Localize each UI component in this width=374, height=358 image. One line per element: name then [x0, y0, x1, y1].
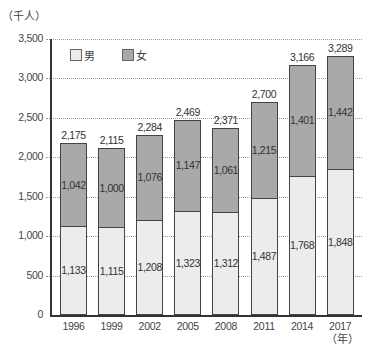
value-label-male: 1,848	[320, 236, 360, 248]
value-label-male: 1,312	[206, 257, 246, 269]
legend-swatch-female	[122, 49, 134, 61]
value-label-female: 1,401	[282, 114, 322, 126]
y-tick-label: 3,000	[3, 71, 43, 83]
value-label-male: 1,323	[168, 257, 208, 269]
value-label-female: 1,147	[168, 159, 208, 171]
value-label-total: 2,284	[130, 121, 170, 133]
value-label-female: 1,000	[92, 182, 132, 194]
value-label-female: 1,076	[130, 171, 170, 183]
y-axis-unit: （千人）	[2, 7, 46, 23]
value-label-male: 1,768	[282, 239, 322, 251]
x-tick-label: 2011	[245, 320, 283, 332]
value-label-male: 1,487	[244, 250, 284, 262]
value-label-male: 1,208	[130, 261, 170, 273]
x-tick-label: 1999	[93, 320, 131, 332]
value-label-total: 3,289	[320, 42, 360, 54]
value-label-male: 1,115	[92, 265, 132, 277]
legend-label-female: 女	[136, 47, 147, 63]
value-label-total: 2,700	[244, 88, 284, 100]
value-label-female: 1,442	[320, 106, 360, 118]
x-tick-label: 2014	[283, 320, 321, 332]
x-tick-label: 2005	[169, 320, 207, 332]
value-label-total: 2,469	[168, 106, 208, 118]
y-tick-label: 500	[3, 269, 43, 281]
y-axis-line	[50, 39, 52, 316]
stacked-bar-chart: （千人） （年） 05001,0001,5002,0002,5003,0003,…	[0, 0, 374, 358]
x-tick-label: 1996	[55, 320, 93, 332]
y-tick-label: 2,000	[3, 150, 43, 162]
value-label-female: 1,061	[206, 164, 246, 176]
y-tick-label: 1,000	[3, 229, 43, 241]
y-tick-label: 2,500	[3, 111, 43, 123]
value-label-total: 2,371	[206, 114, 246, 126]
value-label-total: 3,166	[282, 51, 322, 63]
gridline	[46, 39, 362, 40]
value-label-female: 1,215	[244, 144, 284, 156]
value-label-male: 1,133	[54, 264, 94, 276]
y-tick-label: 0	[3, 308, 43, 320]
x-tick-label: 2002	[131, 320, 169, 332]
x-tick-label: 2017	[321, 320, 359, 332]
legend-label-male: 男	[84, 47, 95, 63]
x-axis-line	[50, 315, 362, 317]
x-axis-unit: （年）	[326, 330, 359, 346]
value-label-total: 2,175	[54, 129, 94, 141]
value-label-female: 1,042	[54, 179, 94, 191]
x-tick-label: 2008	[207, 320, 245, 332]
legend-swatch-male	[70, 49, 82, 61]
legend-item-male: 男	[70, 47, 95, 63]
y-tick-label: 3,500	[3, 32, 43, 44]
value-label-total: 2,115	[92, 134, 132, 146]
y-tick-label: 1,500	[3, 190, 43, 202]
legend-item-female: 女	[122, 47, 147, 63]
